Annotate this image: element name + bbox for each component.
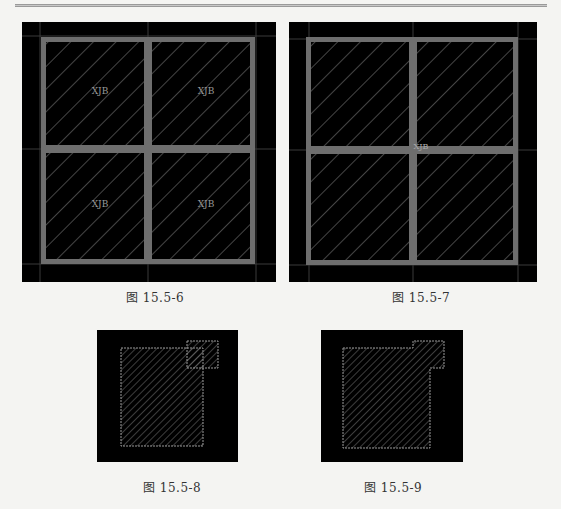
figure-15-5-6: XJB XJB XJB XJB [22,22,276,282]
figure-15-5-7: XJB [289,22,537,282]
slab-label: XJB [92,86,109,96]
slab-label: XJB [198,86,215,96]
figure-caption: 图 15.5-6 [126,288,184,305]
figure-caption: 图 15.5-7 [392,288,450,305]
figure-15-5-8 [97,330,238,462]
slab-label: XJB [414,142,429,151]
figure-caption: 图 15.5-9 [364,478,422,495]
top-rule [15,4,547,7]
slab-label: XJB [198,199,215,209]
slab-label: XJB [92,199,109,209]
figure-caption: 图 15.5-8 [143,478,201,495]
figure-15-5-9 [321,330,463,462]
